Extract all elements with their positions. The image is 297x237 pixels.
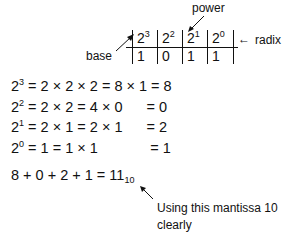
annotation-line: identifies the system base.	[157, 234, 297, 237]
table-header-cell: 23	[133, 30, 158, 46]
power-label: power	[192, 1, 225, 15]
table-header-cell: 20	[208, 30, 233, 46]
equation-line: 22 = 2 × 2 = 4 × 0 = 0	[11, 99, 167, 115]
annotation-arrow-icon	[138, 184, 158, 204]
table-value-cell: 0	[158, 48, 183, 64]
table-header-cell: 21	[183, 30, 208, 46]
equation-line: 20 = 1 = 1 × 1 = 1	[11, 140, 171, 156]
table-value-cell: 1	[183, 48, 208, 64]
table-value-cell: 1	[133, 48, 158, 64]
equation-line: 21 = 2 × 1 = 2 × 1 = 2	[11, 119, 167, 135]
base-label: base	[86, 49, 112, 63]
equation-line: 23 = 2 × 2 × 2 = 8 × 1 = 8	[11, 78, 172, 94]
annotation-note: Using this mantissa 10 clearly identifie…	[157, 200, 297, 237]
table-header-cell: 22	[158, 30, 183, 46]
radix-arrow-icon: ←	[238, 32, 250, 46]
annotation-line: Using this mantissa 10 clearly	[157, 200, 297, 234]
radix-label: radix	[255, 33, 281, 47]
sum-line: 8 + 0 + 2 + 1 = 1110	[11, 167, 134, 183]
table-value-cell: 1	[208, 48, 233, 64]
